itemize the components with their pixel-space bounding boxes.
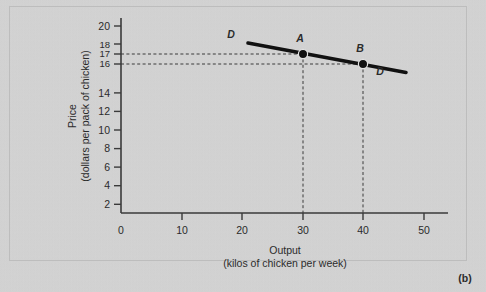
curve-label-d-right: D — [376, 65, 384, 77]
y-tick-label-20: 20 — [98, 20, 110, 32]
x-axis-tick-labels: 0 10 20 30 40 50 — [118, 224, 430, 236]
data-point-a — [298, 49, 307, 58]
y-tick-label-10: 10 — [98, 124, 110, 136]
y-axis-title-main: Price — [66, 104, 78, 128]
x-axis-title-main: Output — [269, 244, 301, 256]
y-tick-label-8: 8 — [104, 142, 110, 154]
data-point-b — [358, 59, 367, 68]
x-tick-label-20: 20 — [236, 224, 248, 236]
x-tick-label-50: 50 — [418, 224, 430, 236]
panel-caption: (b) — [458, 272, 471, 284]
x-tick-label-10: 10 — [176, 224, 188, 236]
x-axis-title: Output (kilos of chicken per week) — [223, 244, 347, 269]
y-tick-label-6: 6 — [104, 161, 110, 173]
y-axis-title-sub: (dollars per pack of chicken) — [79, 50, 91, 181]
y-tick-label-18: 18 — [99, 39, 110, 50]
y-axis-ticks — [114, 26, 121, 204]
x-tick-label-40: 40 — [357, 224, 369, 236]
y-tick-label-4: 4 — [104, 179, 110, 191]
chart-canvas: 2 4 6 8 10 12 14 16 17 18 20 0 10 20 30 … — [0, 0, 486, 292]
x-axis-ticks — [182, 213, 424, 220]
x-axis-title-sub: (kilos of chicken per week) — [223, 257, 347, 269]
y-tick-label-12: 12 — [98, 105, 110, 117]
y-tick-label-17: 17 — [99, 48, 110, 59]
y-tick-label-16: 16 — [99, 58, 110, 69]
x-tick-label-30: 30 — [297, 224, 309, 236]
y-axis-title: Price (dollars per pack of chicken) — [66, 50, 91, 181]
y-tick-label-2: 2 — [104, 198, 110, 210]
y-tick-label-14: 14 — [98, 87, 110, 99]
figure-panel-b: 2 4 6 8 10 12 14 16 17 18 20 0 10 20 30 … — [0, 0, 486, 292]
axes — [121, 18, 448, 213]
data-point-label-a: A — [295, 32, 304, 44]
x-tick-label-0: 0 — [118, 224, 124, 236]
data-point-label-b: B — [356, 42, 364, 54]
y-axis-tick-labels: 2 4 6 8 10 12 14 16 17 18 20 — [98, 20, 110, 210]
curve-label-d-left: D — [227, 28, 235, 40]
guide-lines — [121, 54, 363, 213]
